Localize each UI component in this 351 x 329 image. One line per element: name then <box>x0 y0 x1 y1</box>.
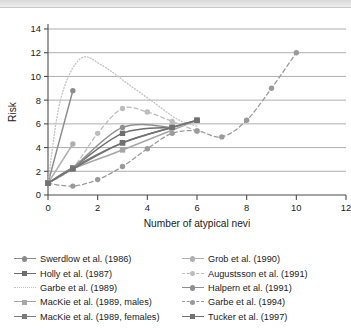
data-point-marker <box>95 177 100 182</box>
legend-item: Grob et al. (1990) <box>182 252 351 266</box>
series-5 <box>45 141 75 186</box>
data-point-marker <box>294 50 299 55</box>
legend-item: Garbe et al. (1994) <box>182 295 351 309</box>
legend-item: MacKie et al. (1989, females) <box>14 310 184 324</box>
data-point-marker <box>244 118 249 123</box>
legend-label: Halpern et al. (1991) <box>208 282 292 294</box>
legend-key-icon <box>182 282 204 294</box>
legend-marker-sample <box>190 256 195 261</box>
legend-marker-sample <box>22 271 27 276</box>
legend-label: Holly et al. (1987) <box>40 268 112 280</box>
y-tick-label: 8 <box>36 95 41 106</box>
data-point-marker <box>120 140 125 145</box>
legend-key-icon <box>182 311 204 323</box>
chart-canvas: 02468101214024681012Number of atypical n… <box>0 10 351 245</box>
data-point-marker <box>45 180 50 185</box>
y-tick-label: 0 <box>36 189 41 200</box>
legend-label: Garbe et al. (1989) <box>40 282 117 294</box>
legend-label: Tucker et al. (1997) <box>208 311 287 323</box>
x-tick-label: 12 <box>341 202 351 213</box>
legend-key-icon <box>14 296 36 308</box>
legend-marker-sample <box>190 300 195 305</box>
data-point-marker <box>70 141 75 146</box>
legend-item: Garbe et al. (1989) <box>14 281 184 295</box>
top-decorative-bar <box>0 0 351 7</box>
legend-marker-sample <box>190 314 195 319</box>
x-tick-label: 10 <box>291 202 301 213</box>
y-tick-label: 12 <box>31 47 41 58</box>
data-point-marker <box>145 109 150 114</box>
legend-item: Augustsson et al. (1991) <box>182 266 351 280</box>
data-point-marker <box>194 118 199 123</box>
x-tick-label: 0 <box>45 202 50 213</box>
risk-vs-nevi-chart: 02468101214024681012Number of atypical n… <box>0 10 351 245</box>
data-point-marker <box>120 131 125 136</box>
legend-column-left: Swerdlow et al. (1986)Holly et al. (1987… <box>14 252 184 324</box>
legend-marker-sample <box>190 285 195 290</box>
series-6 <box>45 106 199 186</box>
y-tick-label: 14 <box>31 23 41 34</box>
y-tick-label: 4 <box>36 142 41 153</box>
legend-marker-sample <box>190 271 195 276</box>
data-point-marker <box>120 164 125 169</box>
legend-key-icon <box>14 268 36 280</box>
legend-key-icon <box>14 311 36 323</box>
data-point-marker <box>95 131 100 136</box>
chart-legend: Swerdlow et al. (1986)Holly et al. (1987… <box>0 252 351 329</box>
data-point-marker <box>120 147 125 152</box>
data-point-marker <box>70 183 75 188</box>
legend-item: Swerdlow et al. (1986) <box>14 252 184 266</box>
legend-item: Holly et al. (1987) <box>14 266 184 280</box>
legend-label: Swerdlow et al. (1986) <box>40 253 131 265</box>
data-point-marker <box>169 125 174 130</box>
top-divider-line <box>0 7 351 8</box>
data-point-marker <box>145 146 150 151</box>
data-point-marker <box>219 134 224 139</box>
x-tick-label: 6 <box>194 202 199 213</box>
data-point-marker <box>169 131 174 136</box>
legend-label: MacKie et al. (1989, males) <box>40 296 152 308</box>
legend-line-sample <box>14 287 36 288</box>
y-tick-label: 10 <box>31 71 41 82</box>
y-tick-label: 6 <box>36 118 41 129</box>
data-point-marker <box>70 166 75 171</box>
data-point-marker <box>120 125 125 130</box>
legend-key-icon <box>182 268 204 280</box>
legend-label: MacKie et al. (1989, females) <box>40 311 160 323</box>
legend-label: Grob et al. (1990) <box>208 253 280 265</box>
legend-label: Augustsson et al. (1991) <box>208 268 308 280</box>
legend-marker-sample <box>22 314 27 319</box>
legend-item: Halpern et al. (1991) <box>182 281 351 295</box>
data-point-marker <box>194 128 199 133</box>
data-point-marker <box>169 119 174 124</box>
legend-marker-sample <box>22 300 27 305</box>
data-point-marker <box>70 88 75 93</box>
legend-label: Garbe et al. (1994) <box>208 296 285 308</box>
x-tick-label: 8 <box>244 202 249 213</box>
data-point-marker <box>269 86 274 91</box>
legend-key-icon <box>14 282 36 294</box>
x-axis-title: Number of atypical nevi <box>144 218 250 229</box>
legend-item: MacKie et al. (1989, males) <box>14 295 184 309</box>
legend-key-icon <box>182 296 204 308</box>
legend-key-icon <box>182 253 204 265</box>
legend-column-right: Grob et al. (1990)Augustsson et al. (199… <box>182 252 351 324</box>
y-tick-label: 2 <box>36 166 41 177</box>
legend-item: Tucker et al. (1997) <box>182 310 351 324</box>
y-axis-title: Risk <box>7 101 18 122</box>
legend-marker-sample <box>22 256 27 261</box>
legend-key-icon <box>14 253 36 265</box>
data-point-marker <box>120 106 125 111</box>
x-tick-label: 2 <box>95 202 100 213</box>
x-tick-label: 4 <box>145 202 150 213</box>
